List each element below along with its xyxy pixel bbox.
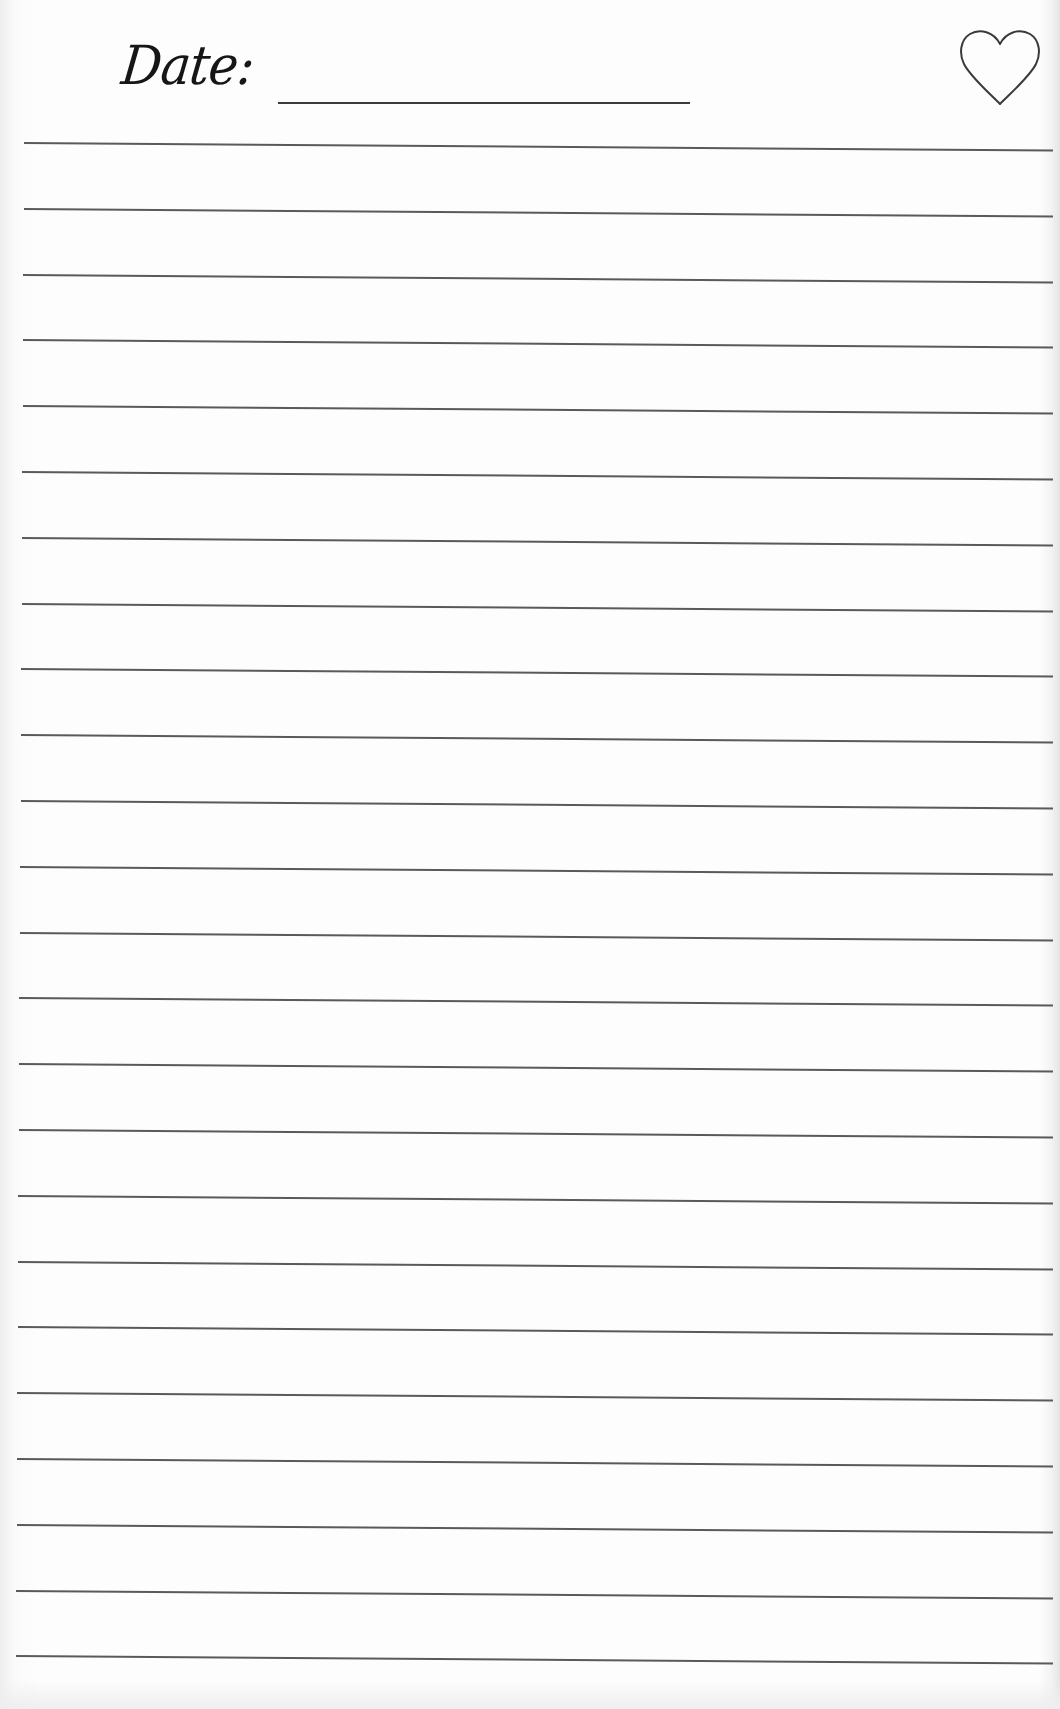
- ruled-line: [18, 1326, 1053, 1335]
- ruled-line: [23, 405, 1053, 414]
- ruled-line: [17, 1392, 1053, 1401]
- ruled-line: [20, 866, 1053, 875]
- page-edge-shadow: [0, 1679, 1060, 1709]
- ruled-line: [24, 208, 1053, 217]
- ruled-line: [19, 1063, 1053, 1072]
- ruled-line: [17, 1524, 1053, 1533]
- ruled-line: [22, 471, 1053, 480]
- ruled-line: [23, 339, 1053, 348]
- ruled-line: [17, 1458, 1053, 1467]
- ruled-line: [19, 1129, 1053, 1138]
- notebook-page: Date:: [0, 0, 1060, 1709]
- ruled-line: [18, 1195, 1053, 1204]
- ruled-line: [18, 1261, 1053, 1270]
- ruled-line: [19, 997, 1052, 1006]
- ruled-line: [16, 1655, 1053, 1664]
- ruled-line: [16, 1590, 1053, 1599]
- ruled-line: [21, 668, 1053, 677]
- ruled-line: [22, 603, 1053, 612]
- ruled-line: [22, 537, 1053, 546]
- ruled-line: [24, 142, 1053, 151]
- ruled-line: [21, 800, 1053, 809]
- ruled-lines: [0, 0, 1060, 1709]
- ruled-line: [23, 274, 1053, 283]
- ruled-line: [21, 734, 1053, 743]
- ruled-line: [20, 932, 1053, 941]
